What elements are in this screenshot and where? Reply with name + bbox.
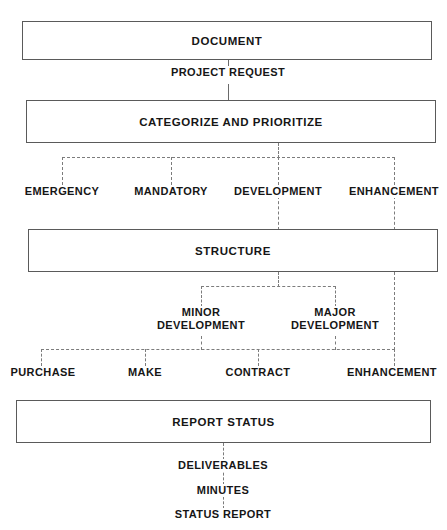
connector-drop-enhancement-leaf: [394, 349, 395, 366]
node-enhancement-label: ENHANCEMENT: [349, 185, 439, 197]
node-contract[interactable]: CONTRACT: [224, 366, 293, 379]
connector-minor-to-acquisition: [201, 336, 202, 350]
node-enhancement[interactable]: ENHANCEMENT: [347, 185, 441, 198]
node-purchase[interactable]: PURCHASE: [9, 366, 78, 379]
connector-categorize-stem: [278, 143, 279, 158]
connector-label-to-categorize: [228, 84, 229, 100]
node-minutes[interactable]: MINUTES: [195, 484, 251, 497]
connector-drop-major-development: [335, 286, 336, 307]
node-purchase-label: PURCHASE: [11, 366, 76, 378]
process-box-structure[interactable]: STRUCTURE: [28, 229, 438, 272]
node-minor-development-line1: MINOR: [157, 306, 245, 319]
connector-category-bus: [62, 157, 395, 158]
node-mandatory[interactable]: MANDATORY: [132, 185, 210, 198]
node-development[interactable]: DEVELOPMENT: [232, 185, 324, 198]
node-emergency-label: EMERGENCY: [25, 185, 100, 197]
connector-drop-emergency: [62, 157, 63, 185]
node-major-development-line2: DEVELOPMENT: [291, 319, 379, 332]
connector-report-to-deliverables: [223, 443, 224, 460]
connector-acquisition-bus: [41, 349, 395, 350]
node-minutes-label: MINUTES: [197, 484, 249, 496]
process-box-structure-label: STRUCTURE: [195, 245, 271, 257]
connector-development-bus: [201, 286, 336, 287]
node-emergency[interactable]: EMERGENCY: [23, 185, 102, 198]
connector-drop-development: [278, 157, 279, 185]
connector-drop-minor-development: [201, 286, 202, 307]
flowchart-diagram: DOCUMENT CATEGORIZE AND PRIORITIZE STRUC…: [0, 0, 447, 530]
connector-development-to-structure: [278, 196, 279, 230]
process-box-categorize-and-prioritize[interactable]: CATEGORIZE AND PRIORITIZE: [26, 100, 436, 143]
node-minor-development-line2: DEVELOPMENT: [157, 319, 245, 332]
node-deliverables-label: DELIVERABLES: [178, 459, 268, 471]
connector-structure-stem: [278, 272, 279, 287]
connector-drop-contract: [258, 349, 259, 366]
node-contract-label: CONTRACT: [226, 366, 291, 378]
node-major-development[interactable]: MAJOR DEVELOPMENT: [289, 306, 381, 332]
node-development-label: DEVELOPMENT: [234, 185, 322, 197]
process-box-report-status[interactable]: REPORT STATUS: [16, 400, 431, 443]
edge-label-project-request: PROJECT REQUEST: [169, 66, 287, 79]
process-box-document[interactable]: DOCUMENT: [22, 21, 432, 60]
connector-enhancement-bypass-lower: [394, 272, 395, 350]
process-box-report-status-label: REPORT STATUS: [172, 416, 275, 428]
node-make-label: MAKE: [128, 366, 162, 378]
node-make[interactable]: MAKE: [126, 366, 164, 379]
node-enhancement-leaf-label: ENHANCEMENT: [347, 366, 437, 378]
connector-enhancement-bypass-upper: [394, 196, 395, 230]
node-mandatory-label: MANDATORY: [134, 185, 208, 197]
connector-drop-make: [145, 349, 146, 366]
node-status-report-label: STATUS REPORT: [175, 508, 271, 520]
node-deliverables[interactable]: DELIVERABLES: [176, 459, 270, 472]
connector-drop-mandatory: [171, 157, 172, 185]
connector-drop-enhancement: [394, 157, 395, 185]
connector-drop-purchase: [41, 349, 42, 366]
node-enhancement-leaf[interactable]: ENHANCEMENT: [345, 366, 439, 379]
connector-major-to-acquisition: [335, 336, 336, 350]
node-status-report[interactable]: STATUS REPORT: [173, 508, 273, 521]
edge-label-project-request-text: PROJECT REQUEST: [171, 66, 285, 78]
process-box-categorize-and-prioritize-label: CATEGORIZE AND PRIORITIZE: [139, 116, 323, 128]
node-minor-development[interactable]: MINOR DEVELOPMENT: [155, 306, 247, 332]
process-box-document-label: DOCUMENT: [192, 35, 263, 47]
node-major-development-line1: MAJOR: [291, 306, 379, 319]
